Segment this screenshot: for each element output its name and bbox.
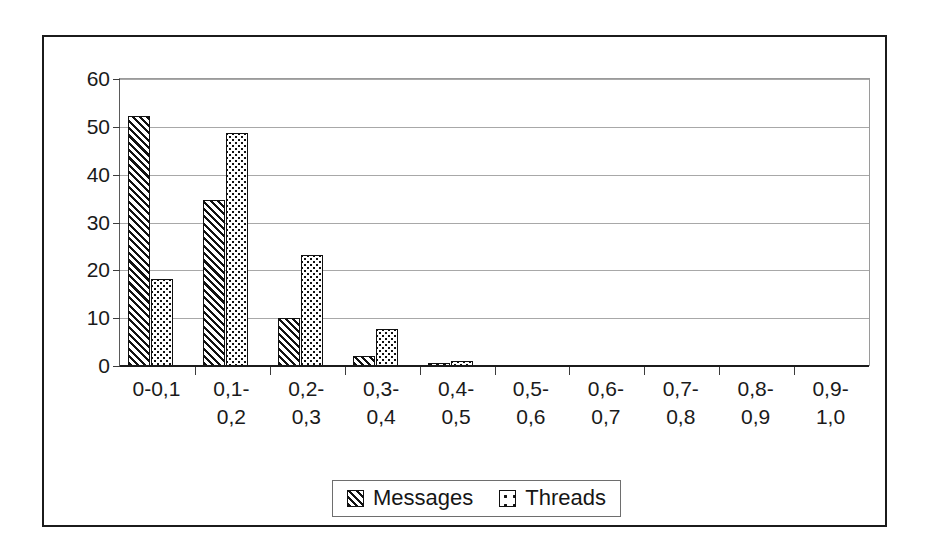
x-axis-tick [644,366,645,375]
x-axis-tick [420,366,421,375]
bar-group [719,79,794,366]
y-axis-labels: 0102030405060 [44,37,110,525]
x-axis-tick [794,366,795,375]
plot-area [119,78,870,366]
bar-group [345,79,420,366]
y-axis-tick [113,366,120,367]
bar-group [794,79,869,366]
bar-threads [151,279,173,366]
bar-group [644,79,719,366]
bar-messages [128,116,150,366]
chart-frame: 0102030405060 0-0,10,1-0,20,2-0,30,3-0,4… [42,35,887,527]
x-axis-labels: 0-0,10,1-0,20,2-0,30,3-0,40,4-0,50,5-0,6… [119,375,870,445]
x-axis-tick [495,366,496,375]
x-axis-label: 0,1-0,2 [194,375,269,431]
x-axis-label: 0,8-0,9 [718,375,793,431]
legend-label: Threads [525,487,606,509]
x-axis-tick [719,366,720,375]
bar-group [120,79,195,366]
y-axis-tick [113,127,120,128]
x-axis-label: 0,5-0,6 [494,375,569,431]
x-axis-label: 0,4-0,5 [419,375,494,431]
legend-item: Messages [347,487,473,509]
y-axis-label: 60 [87,68,110,89]
bar-threads [376,329,398,366]
y-axis-label: 20 [87,259,110,280]
x-axis-tick [345,366,346,375]
bars-layer [120,79,869,366]
y-axis-label: 10 [87,307,110,328]
bar-messages [203,200,225,366]
x-axis-baseline [120,365,869,367]
x-axis-tick [270,366,271,375]
x-axis-label: 0,9-1,0 [793,375,868,431]
bar-group [195,79,270,366]
y-axis-tick [113,270,120,271]
bar-threads [301,255,323,366]
bar-threads [226,133,248,366]
y-axis-label: 50 [87,115,110,136]
legend-label: Messages [373,487,473,509]
y-axis-label: 40 [87,163,110,184]
x-axis-label: 0,3-0,4 [344,375,419,431]
legend-swatch-icon [499,490,516,507]
bar-group [495,79,570,366]
chart-legend: MessagesThreads [332,480,621,517]
bar-group [569,79,644,366]
y-axis-label: 30 [87,211,110,232]
y-axis-tick [113,223,120,224]
x-axis-label: 0-0,1 [119,375,194,403]
bar-group [270,79,345,366]
x-axis-label: 0,2-0,3 [269,375,344,431]
y-axis-tick [113,79,120,80]
y-axis-tick [113,318,120,319]
x-axis-label: 0,7-0,8 [643,375,718,431]
x-axis-tick [569,366,570,375]
legend-item: Threads [499,487,606,509]
bar-group [420,79,495,366]
x-axis-tick [195,366,196,375]
y-axis-label: 0 [98,355,110,376]
bar-messages [278,318,300,366]
y-axis-tick [113,175,120,176]
legend-swatch-icon [347,490,364,507]
x-axis-label: 0,6-0,7 [568,375,643,431]
